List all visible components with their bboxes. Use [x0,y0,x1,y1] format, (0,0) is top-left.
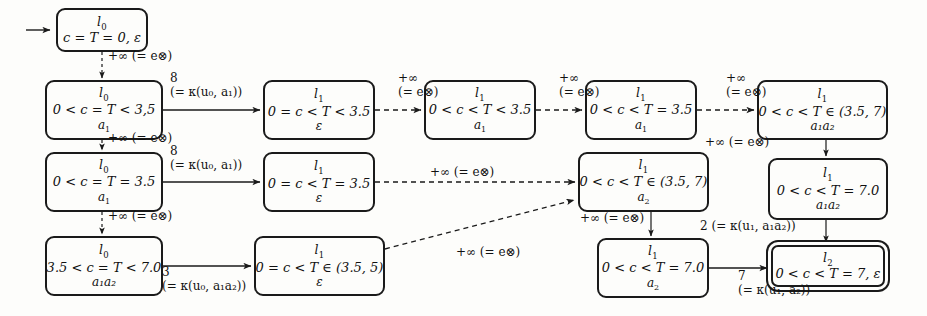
node-constraint: 0 < c < T = 7, ε [775,267,880,281]
node-constraint: 0 < c < T ∈ (3.5, 7) [580,175,708,189]
node-location: l1 [823,166,833,182]
node-location: l1 [639,158,649,174]
node-word: a₁a₂ [92,276,116,289]
node-constraint: c = T = 0, ε [63,31,141,45]
node-location: l1 [314,87,324,103]
node-l1-eps-1[interactable]: l1 0 = c < T < 3.5 ε [263,80,375,140]
node-l1-a2-interval[interactable]: l1 0 < c < T ∈ (3.5, 7) a2 [578,152,709,212]
node-word: ε [316,120,322,133]
node-constraint: 0 = c < T < 3.5 [268,105,370,119]
node-constraint: 0 = c < T = 3.5 [268,177,370,191]
edge-b3-to-d2 [385,200,574,249]
node-constraint: 0 = c < T ∈ (3.5, 5) [256,261,384,275]
node-location: l0 [99,86,109,102]
node-l1-a1a2-eq7[interactable]: l1 0 < c < T = 7.0 a₁a₂ [768,158,888,220]
node-location: l0 [99,243,109,259]
edge-label-d2-d3: +∞ (= e⊗) [580,212,644,226]
node-constraint: 0 < c < T = 3.5 [590,103,692,117]
edge-label-a1-a2: +∞ (= e⊗) [108,132,172,146]
node-constraint: 0 < c < T ∈ (3.5, 7) [759,105,887,119]
node-constraint: 0 < c = T < 3,5 [53,103,155,117]
edge-label-a2-a3: +∞ (= e⊗) [108,210,172,224]
node-location: l1 [648,244,658,260]
node-location: l1 [636,86,646,102]
node-word: a1 [98,191,110,207]
node-l1-a1a2-interval[interactable]: l1 0 < c < T ∈ (3.5, 7) a₁a₂ [757,80,888,140]
node-word: a1 [474,119,486,135]
node-location: l2 [823,251,833,267]
node-constraint: 0 < c = T = 3.5 [53,175,155,189]
node-word: a1 [635,119,647,135]
edge-label-e2-acc: 2 (= κ(u₁, a₁a₂)) [700,220,796,234]
node-location: l1 [314,159,324,175]
edge-label-init-a1: +∞ (= e⊗) [108,50,172,64]
node-word: ε [316,192,322,205]
node-word: a2 [637,191,649,207]
node-l1-eps-2[interactable]: l1 0 = c < T = 3.5 ε [263,152,375,212]
node-location: l0 [97,15,107,31]
node-location: l1 [475,86,485,102]
node-l0-a1-eq35[interactable]: l0 0 < c = T = 3.5 a1 [45,152,163,212]
node-l1-a1-open[interactable]: l1 0 < c < T < 3.5 a1 [424,80,536,140]
node-l0-a1a2[interactable]: l0 3.5 < c = T < 7.0 a₁a₂ [45,236,163,296]
node-initial[interactable]: l0 c = T = 0, ε [56,8,148,52]
node-word: a₁a₂ [816,199,840,212]
edge-label-e1-e2: +∞ (= e⊗) [705,136,769,150]
node-constraint: 0 < c < T = 7.0 [777,184,879,198]
node-constraint: 3.5 < c = T < 7.0 [47,261,162,275]
node-constraint: 0 < c < T < 3.5 [429,103,531,117]
node-location: l1 [818,87,828,103]
node-location: l0 [99,158,109,174]
node-word: a2 [647,277,659,293]
node-constraint: 0 < c < T = 7.0 [602,261,704,275]
node-word: a₁a₂ [811,120,835,133]
node-location: l1 [315,243,325,259]
node-l1-a1-eq35[interactable]: l1 0 < c < T = 3.5 a1 [585,80,697,140]
node-accepting-l2[interactable]: l2 0 < c < T = 7, ε [771,245,885,287]
node-l1-eps-3[interactable]: l1 0 = c < T ∈ (3.5, 5) ε [254,236,385,296]
diagram-canvas: l0 c = T = 0, ε l0 0 < c = T < 3,5 a1 l1… [0,0,927,316]
node-word: ε [316,276,322,289]
node-l1-a2-eq7[interactable]: l1 0 < c < T = 7.0 a2 [597,238,709,298]
